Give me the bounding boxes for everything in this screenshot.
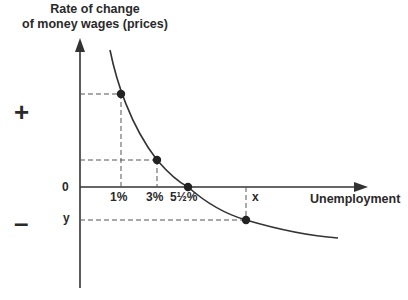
x-tick-1pct: 1% [110,190,127,204]
x-axis-arrow-icon [354,182,368,192]
x-marker-label: x [252,190,259,204]
negative-sign: – [14,208,28,239]
phillips-curve-diagram [0,0,408,300]
positive-sign: + [14,97,29,128]
y-marker-label: y [63,211,70,225]
y-axis-arrow-icon [75,38,85,52]
data-points [117,90,250,224]
x-tick-5-5pct: 5½% [170,190,197,204]
y-zero-label: 0 [62,180,69,194]
x-axis-label: Unemployment [310,192,400,206]
phillips-curve [110,50,338,238]
point-3pct [153,156,161,164]
point-1pct [117,90,125,98]
point-x [242,216,250,224]
x-tick-3pct: 3% [146,190,163,204]
